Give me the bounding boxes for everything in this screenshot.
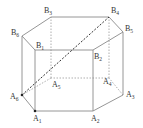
label-A5: A5	[52, 80, 61, 90]
label-A1: A1	[33, 114, 42, 124]
edge-B2-B5	[93, 32, 123, 50]
edge-A2-A3	[93, 95, 123, 111]
label-B4: B4	[111, 6, 119, 16]
hexagonal-prism-diagram: A1A2A3A4A5A6B1B2B3B4B5B6	[0, 0, 143, 128]
label-A4: A4	[103, 77, 112, 87]
label-A6: A6	[10, 92, 19, 102]
label-B3: B3	[44, 6, 52, 16]
visible-edges	[22, 17, 123, 111]
edge-A6-A1	[22, 95, 35, 111]
edge-B6-B1	[22, 36, 35, 50]
label-A2: A2	[91, 114, 100, 124]
label-B2: B2	[94, 52, 102, 62]
edge-B5-B4	[109, 17, 123, 32]
edge-B3-B6	[22, 17, 51, 36]
label-B6: B6	[11, 28, 19, 38]
label-A3: A3	[126, 90, 135, 100]
vertex-labels: A1A2A3A4A5A6B1B2B3B4B5B6	[10, 6, 135, 124]
label-B5: B5	[125, 24, 133, 34]
point-A1	[34, 110, 37, 113]
hidden-edge-A5-A6	[22, 78, 51, 95]
point-A6	[21, 94, 24, 97]
label-B1: B1	[36, 41, 44, 51]
